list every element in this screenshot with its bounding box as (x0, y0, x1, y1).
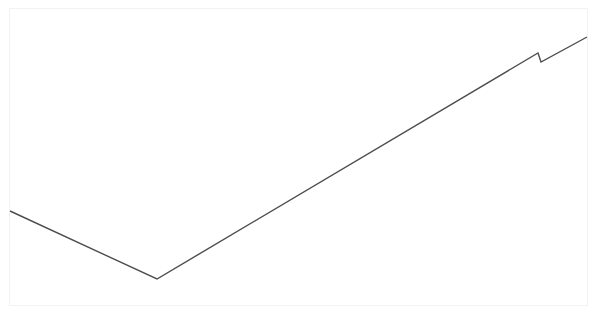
line-chart-canvas (0, 0, 597, 316)
data-series-line[interactable] (10, 37, 587, 279)
series-group (10, 37, 587, 279)
screenshot-root (0, 0, 597, 316)
